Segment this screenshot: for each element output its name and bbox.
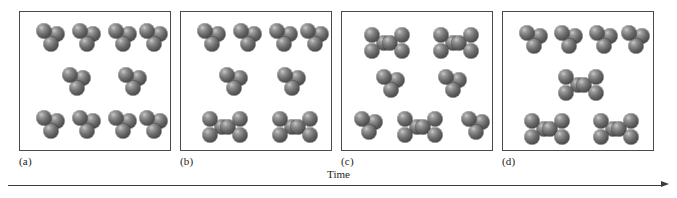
atom-sphere (303, 127, 318, 142)
atom-sphere (624, 113, 639, 128)
atom-sphere (277, 67, 292, 82)
atom-sphere (72, 23, 87, 38)
atom-sphere (559, 85, 574, 100)
atom-sphere (464, 27, 479, 42)
atom-sphere (118, 67, 133, 82)
atom-sphere (395, 27, 410, 42)
atom-sphere (461, 111, 476, 126)
atom-sphere (561, 39, 576, 54)
panel-c (341, 11, 493, 151)
atom-sphere (596, 39, 611, 54)
atom-sphere (365, 27, 380, 42)
atom-sphere (628, 39, 643, 54)
atom-sphere (398, 111, 413, 126)
arrow-right-icon (661, 181, 669, 187)
atom-sphere (589, 25, 604, 40)
atom-sphere (559, 69, 574, 84)
atom-sphere (62, 67, 77, 82)
atom-sphere (361, 125, 376, 140)
time-axis-label: Time (0, 168, 677, 180)
atom-sphere (445, 83, 460, 98)
atom-sphere (139, 23, 154, 38)
atom-sphere (43, 37, 58, 52)
atom-sphere (303, 111, 318, 126)
panel-a (19, 11, 171, 151)
atom-sphere (204, 37, 219, 52)
atom-sphere (383, 83, 398, 98)
atom-sphere (525, 113, 540, 128)
molecular-timeline-figure: (a) (b) (c) (d) Time (0, 0, 677, 198)
atom-sphere (36, 110, 51, 125)
time-axis-arrow (8, 184, 669, 186)
atom-sphere (594, 113, 609, 128)
panel-label-a: (a) (19, 155, 32, 167)
panel-d (502, 11, 654, 151)
atom-sphere (273, 111, 288, 126)
atom-sphere (269, 23, 284, 38)
atom-sphere (146, 37, 161, 52)
atom-sphere (555, 113, 570, 128)
atom-sphere (43, 124, 58, 139)
atom-sphere (589, 85, 604, 100)
atom-sphere (428, 127, 443, 142)
atom-sphere (219, 67, 234, 82)
atom-sphere (624, 129, 639, 144)
atom-sphere (307, 37, 322, 52)
atom-sphere (365, 43, 380, 58)
atom-sphere (139, 110, 154, 125)
atom-sphere (203, 127, 218, 142)
panel-label-c: (c) (341, 155, 354, 167)
atom-sphere (589, 69, 604, 84)
atom-sphere (233, 111, 248, 126)
atom-sphere (354, 111, 369, 126)
atom-sphere (203, 111, 218, 126)
atom-sphere (226, 81, 241, 96)
atom-sphere (79, 37, 94, 52)
atom-sphere (464, 43, 479, 58)
atom-sphere (468, 125, 483, 140)
atom-sphere (519, 25, 534, 40)
atom-sphere (594, 129, 609, 144)
panel-label-b: (b) (180, 155, 193, 167)
atom-sphere (434, 27, 449, 42)
atom-sphere (233, 127, 248, 142)
atom-sphere (108, 23, 123, 38)
atom-sphere (395, 43, 410, 58)
atom-sphere (69, 81, 84, 96)
atom-sphere (284, 81, 299, 96)
atom-sphere (108, 110, 123, 125)
atom-sphere (197, 23, 212, 38)
atom-sphere (554, 25, 569, 40)
atom-sphere (398, 127, 413, 142)
atom-sphere (526, 39, 541, 54)
atom-sphere (273, 127, 288, 142)
atom-sphere (276, 37, 291, 52)
time-axis-line (8, 185, 663, 186)
panel-label-d: (d) (502, 155, 515, 167)
atom-sphere (621, 25, 636, 40)
atom-sphere (438, 69, 453, 84)
atom-sphere (115, 124, 130, 139)
atom-sphere (240, 37, 255, 52)
atom-sphere (233, 23, 248, 38)
atom-sphere (376, 69, 391, 84)
atom-sphere (36, 23, 51, 38)
atom-sphere (125, 81, 140, 96)
atom-sphere (115, 37, 130, 52)
atom-sphere (146, 124, 161, 139)
atom-sphere (555, 129, 570, 144)
panel-b (180, 11, 332, 151)
atom-sphere (428, 111, 443, 126)
atom-sphere (434, 43, 449, 58)
atom-sphere (300, 23, 315, 38)
atom-sphere (525, 129, 540, 144)
atom-sphere (79, 124, 94, 139)
atom-sphere (72, 110, 87, 125)
